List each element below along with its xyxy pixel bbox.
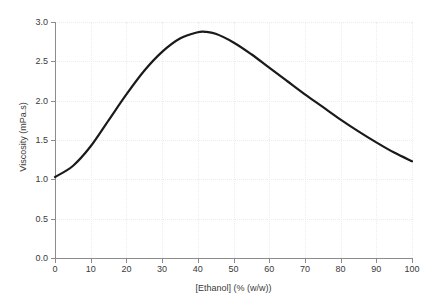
gridline-horizontal: [55, 219, 412, 221]
y-tick-label: 1.0: [0, 175, 48, 184]
y-tick-label: 2.5: [0, 57, 48, 66]
y-tick-mark: [51, 101, 55, 102]
x-tick-mark: [55, 259, 56, 263]
y-tick-mark: [51, 140, 55, 141]
x-tick-label: 50: [219, 265, 249, 274]
chart-figure: [Ethanol] (% (w/w)) Viscosity (mPa.s) 01…: [0, 0, 433, 304]
x-tick-mark: [234, 259, 235, 263]
y-tick-mark: [51, 22, 55, 23]
x-tick-label: 10: [76, 265, 106, 274]
x-tick-label: 20: [111, 265, 141, 274]
x-tick-label: 40: [183, 265, 213, 274]
x-tick-mark: [198, 259, 199, 263]
y-tick-label: 0.5: [0, 215, 48, 224]
y-tick-label: 3.0: [0, 18, 48, 27]
x-tick-label: 70: [290, 265, 320, 274]
gridline-horizontal: [55, 22, 412, 24]
y-tick-mark: [51, 179, 55, 180]
y-tick-mark: [51, 219, 55, 220]
x-tick-label: 0: [40, 265, 70, 274]
x-tick-label: 30: [147, 265, 177, 274]
y-tick-label: 1.5: [0, 136, 48, 145]
y-tick-label: 2.0: [0, 97, 48, 106]
gridline-horizontal: [55, 101, 412, 103]
x-axis-label: [Ethanol] (% (w/w)): [55, 283, 412, 293]
y-tick-label: 0.0: [0, 254, 48, 263]
x-tick-mark: [412, 259, 413, 263]
x-tick-mark: [376, 259, 377, 263]
x-tick-label: 80: [326, 265, 356, 274]
gridline-horizontal: [55, 179, 412, 181]
x-tick-mark: [126, 259, 127, 263]
x-tick-mark: [269, 259, 270, 263]
y-tick-mark: [51, 61, 55, 62]
x-tick-mark: [305, 259, 306, 263]
x-tick-label: 60: [254, 265, 284, 274]
x-tick-label: 100: [397, 265, 427, 274]
x-tick-mark: [91, 259, 92, 263]
gridline-horizontal: [55, 61, 412, 63]
x-tick-label: 90: [361, 265, 391, 274]
gridline-horizontal: [55, 140, 412, 142]
gridline-vertical: [412, 22, 414, 258]
x-tick-mark: [162, 259, 163, 263]
y-axis-line: [55, 22, 56, 259]
x-tick-mark: [341, 259, 342, 263]
